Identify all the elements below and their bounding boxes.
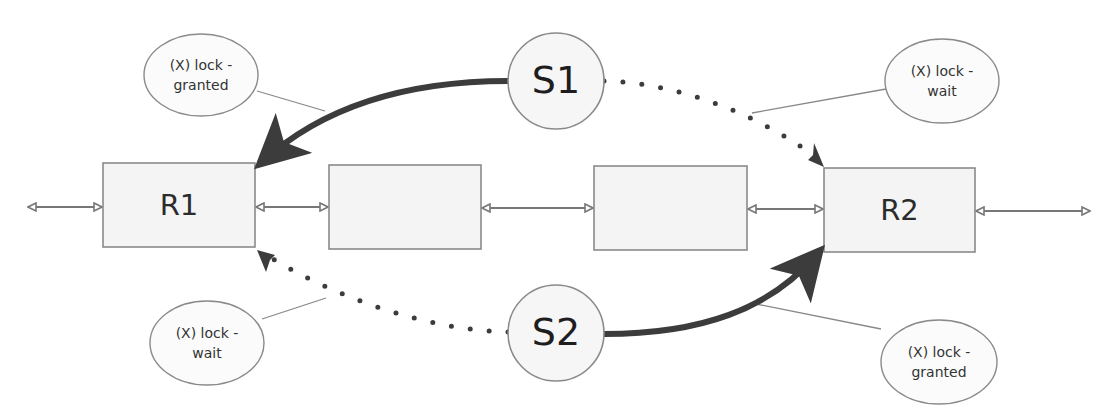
callout-top-right — [885, 39, 999, 123]
callout-bottom-right — [881, 320, 997, 404]
resource-box-r2 — [824, 168, 975, 252]
resource-box-r1 — [103, 163, 255, 247]
leader-bottom-left — [262, 298, 326, 319]
resource-box-middle-1 — [329, 165, 481, 249]
arrowhead-s1-to-r2 — [808, 143, 824, 167]
session-circle-s1 — [508, 33, 604, 129]
deadlock-diagram — [0, 0, 1116, 405]
leader-bottom-right — [756, 304, 881, 329]
arrow-s1-to-r1-granted — [262, 81, 508, 162]
arrow-s2-to-r1-wait — [268, 256, 508, 332]
callout-top-left — [144, 34, 258, 116]
callout-bottom-left — [150, 301, 264, 385]
leader-top-right — [752, 89, 886, 113]
leader-top-left — [257, 91, 325, 111]
session-circle-s2 — [508, 285, 604, 381]
arrow-s1-to-r2-wait — [604, 81, 820, 160]
arrow-s2-to-r2-granted — [604, 253, 818, 334]
resource-box-middle-2 — [594, 166, 747, 250]
